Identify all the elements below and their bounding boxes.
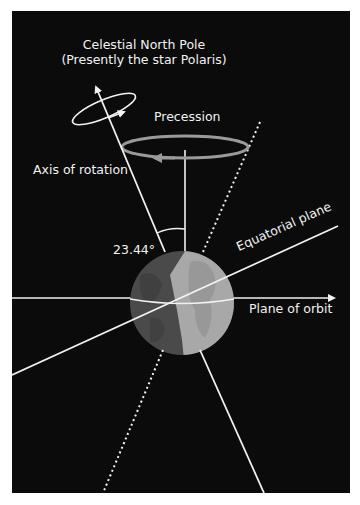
celestial-pole-label: Celestial North Pole (Presently the star… (54, 37, 234, 67)
earth-globe (130, 240, 240, 370)
rotation-ellipse (69, 87, 139, 130)
precession-cone-bottom (103, 350, 163, 493)
earth-axis-diagram (12, 11, 350, 493)
axis-label: Axis of rotation (33, 162, 128, 177)
angle-label: 23.44° (113, 242, 155, 257)
rotation-axis-bottom (200, 350, 264, 493)
diagram-panel: Celestial North Pole (Presently the star… (12, 11, 350, 493)
pole-label-line2: (Presently the star Polaris) (54, 52, 234, 67)
angle-arc (157, 229, 185, 234)
orbit-plane-label: Plane of orbit (249, 301, 332, 316)
precession-label: Precession (154, 109, 221, 124)
pole-label-line1: Celestial North Pole (54, 37, 234, 52)
